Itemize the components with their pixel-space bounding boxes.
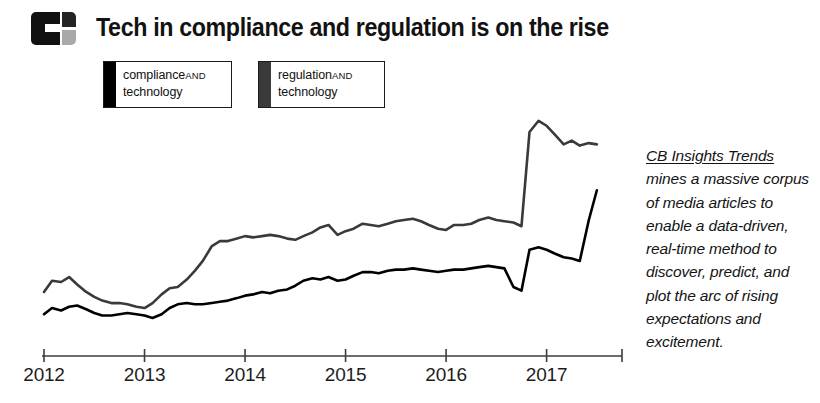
trend-line-chart: 201220132014201520162017 <box>0 0 640 403</box>
chart-canvas <box>0 0 640 403</box>
x-axis-label-2014: 2014 <box>224 364 265 386</box>
x-axis-label-2012: 2012 <box>23 364 64 386</box>
blurb-body: mines a massive corpus of media articles… <box>646 170 809 350</box>
x-axis-labels: 201220132014201520162017 <box>0 364 640 394</box>
chart-series <box>44 121 597 318</box>
x-axis-label-2015: 2015 <box>325 364 366 386</box>
x-axis <box>42 349 622 362</box>
x-axis-label-2017: 2017 <box>526 364 567 386</box>
x-axis-label-2013: 2013 <box>124 364 165 386</box>
x-axis-label-2016: 2016 <box>425 364 466 386</box>
series-line-compliance[interactable] <box>44 190 597 318</box>
side-blurb: CB Insights Trends mines a massive corpu… <box>646 144 816 354</box>
blurb-brand: CB Insights Trends <box>646 147 774 164</box>
